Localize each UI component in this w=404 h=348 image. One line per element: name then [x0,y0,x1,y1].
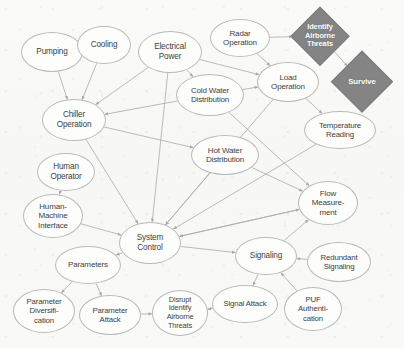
node-label-redundant-signaling: Redundant Signaling [319,253,360,271]
edge-signaling-to-flow-measurement [284,220,308,241]
node-flow-measurement[interactable]: Flow Measure- ment [298,181,358,225]
node-survive[interactable]: Survive [332,52,392,112]
edge-radar-operation-to-identify-airborne-threats [270,37,293,38]
node-label-radar-operation: Radar Operation [221,29,259,48]
edge-redundant-signaling-to-signaling [297,259,308,260]
edge-hot-water-distribution-to-system-control [166,173,210,225]
node-label-pumping: Pumping [34,47,69,57]
edge-parameters-to-parameter-attack [96,283,101,295]
node-electrical-power[interactable]: Electrical Power [138,31,202,73]
edge-system-control-to-flow-measurement [179,209,299,236]
node-radar-operation[interactable]: Radar Operation [210,19,270,57]
node-parameter-diversification[interactable]: Parameter Diversifi- cation [13,289,75,333]
node-label-human-operator: Human Operator [48,162,83,181]
edge-electrical-power-to-system-control [152,73,168,222]
node-label-identify-airborne-threats: Identify Airborne Threats [305,23,335,48]
node-disrupt-identify-airborne-threats[interactable]: Disrupt Identify Airborne Threats [152,290,208,336]
node-label-parameter-attack: Parameter Attack [90,306,129,324]
node-label-parameters: Parameters [66,260,110,269]
diagram-canvas: PumpingCoolingElectrical PowerRadar Oper… [0,0,404,348]
node-label-puf-authentication: PUF Authenti- cation [296,295,330,322]
node-cooling[interactable]: Cooling [77,26,131,64]
node-human-operator[interactable]: Human Operator [37,153,95,191]
edge-signaling-to-signal-attack [253,274,258,285]
node-signal-attack[interactable]: Signal Attack [212,285,278,323]
edge-parameters-to-parameter-diversification [61,282,72,293]
node-puf-authentication[interactable]: PUF Authenti- cation [284,287,342,331]
edge-radar-operation-to-load-operation [257,54,270,66]
edge-chiller-operation-to-system-control [86,139,138,223]
node-label-signal-attack: Signal Attack [221,299,268,308]
node-label-signaling: Signaling [248,251,284,261]
node-human-machine-interface[interactable]: Human- Machine Interface [23,194,83,238]
node-label-parameter-diversification: Parameter Diversifi- cation [24,297,63,324]
node-label-load-operation: Load Operation [269,73,307,92]
node-label-cold-water-distribution: Cold Water Distribution [189,86,231,105]
node-parameters[interactable]: Parameters [55,246,121,284]
node-redundant-signaling[interactable]: Redundant Signaling [307,242,371,282]
edge-electrical-power-to-chiller-operation [96,67,149,104]
edge-cooling-to-chiller-operation [82,63,97,99]
node-temperature-reading[interactable]: Temperature Reading [304,111,376,149]
node-cold-water-distribution[interactable]: Cold Water Distribution [176,74,244,116]
node-load-operation[interactable]: Load Operation [257,62,319,102]
node-parameter-attack[interactable]: Parameter Attack [79,295,141,335]
edge-electrical-power-to-load-operation [200,60,259,75]
edge-cold-water-distribution-to-load-operation [243,87,258,90]
node-label-survive: Survive [348,78,375,87]
node-hot-water-distribution[interactable]: Hot Water Distribution [191,135,259,175]
edge-electrical-power-to-cold-water-distribution [187,70,193,77]
node-pumping[interactable]: Pumping [21,32,83,72]
edge-puf-authentication-to-signaling [281,273,297,291]
edge-flow-measurement-to-system-control [179,209,299,236]
edge-load-operation-to-temperature-reading [306,98,322,113]
node-system-control[interactable]: System Control [119,222,181,264]
node-label-system-control: System Control [135,233,165,252]
node-label-disrupt-identify-airborne-threats: Disrupt Identify Airborne Threats [165,296,196,330]
edge-human-machine-interface-to-system-control [81,224,121,235]
edge-pumping-to-chiller-operation [58,72,67,100]
node-label-cooling: Cooling [89,40,120,50]
edge-chiller-operation-to-hot-water-distribution [104,127,193,148]
node-label-human-machine-interface: Human- Machine Interface [36,202,70,230]
edge-system-control-to-parameters [116,253,122,255]
edge-hot-water-distribution-to-flow-measurement [252,167,303,191]
node-label-chiller-operation: Chiller Operation [55,110,94,129]
edge-system-control-to-signaling [181,246,236,252]
node-label-hot-water-distribution: Hot Water Distribution [204,146,246,165]
node-signaling[interactable]: Signaling [235,237,297,275]
node-chiller-operation[interactable]: Chiller Operation [42,99,106,141]
node-label-electrical-power: Electrical Power [152,42,188,61]
node-label-flow-measurement: Flow Measure- ment [310,189,347,217]
node-label-temperature-reading: Temperature Reading [317,121,363,139]
edge-cold-water-distribution-to-chiller-operation [105,101,178,114]
